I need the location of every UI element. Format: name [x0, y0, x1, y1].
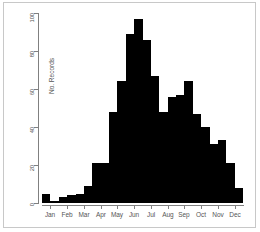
x-tick-label-dec: Dec [222, 211, 248, 219]
x-tick-nov [218, 205, 219, 209]
bar [184, 81, 192, 203]
bar [235, 188, 243, 203]
x-tick-sep [184, 205, 185, 209]
x-tick-may [117, 205, 118, 209]
x-tick-jun [134, 205, 135, 209]
bar [143, 40, 151, 203]
bar [59, 197, 67, 203]
bar [193, 114, 201, 203]
x-axis-line [42, 205, 244, 206]
x-tick-apr [101, 205, 102, 209]
bar [210, 144, 218, 203]
x-tick-mar [84, 205, 85, 209]
bar [176, 95, 184, 203]
bar [117, 81, 125, 203]
x-tick-oct [201, 205, 202, 209]
bar [84, 186, 92, 203]
y-tick-label-100: 100 [29, 13, 35, 35]
y-axis-line [38, 13, 39, 204]
y-tick-label-60: 60 [29, 89, 35, 111]
bar-series [42, 13, 243, 203]
bar [201, 127, 209, 203]
bar [42, 194, 50, 204]
bar [67, 195, 75, 203]
bar [92, 163, 100, 203]
bar [126, 34, 134, 203]
histogram-figure: 0 20 40 60 80 100 No. Records JanFebMarA… [0, 0, 260, 232]
bar [134, 19, 142, 203]
x-tick-jan [50, 205, 51, 209]
bar [151, 76, 159, 203]
plot-area [42, 13, 243, 203]
bar [76, 194, 84, 204]
bar [218, 140, 226, 203]
bar [101, 163, 109, 203]
x-tick-aug [168, 205, 169, 209]
bar [50, 201, 58, 203]
y-tick-label-40: 40 [29, 127, 35, 149]
x-tick-dec [235, 205, 236, 209]
y-tick-label-0: 0 [29, 203, 35, 225]
bar [109, 112, 117, 203]
y-tick-label-80: 80 [29, 51, 35, 73]
bar [168, 97, 176, 203]
x-tick-jul [151, 205, 152, 209]
bar [226, 163, 234, 203]
y-tick-label-20: 20 [29, 165, 35, 187]
x-tick-feb [67, 205, 68, 209]
bar [159, 112, 167, 203]
